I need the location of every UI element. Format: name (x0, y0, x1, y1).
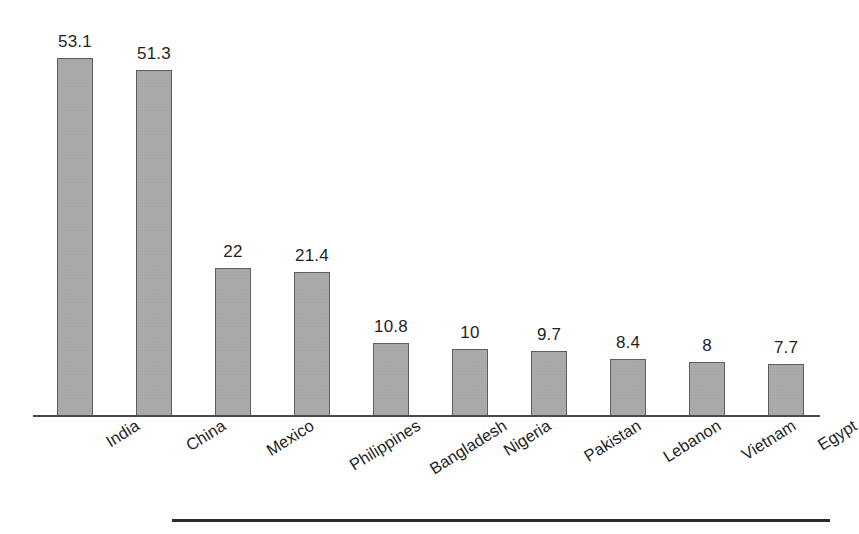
bar-group: 10.8 (373, 0, 409, 416)
bar-group: 7.7 (768, 0, 804, 416)
bar-value-label: 10 (460, 323, 479, 343)
bar (57, 58, 93, 416)
bar-group: 21.4 (294, 0, 330, 416)
bar (215, 268, 251, 416)
bar (136, 70, 172, 416)
bar-value-label: 10.8 (374, 317, 408, 337)
bar-group: 22 (215, 0, 251, 416)
footer-rule (172, 519, 830, 522)
category-label: Vietnam (738, 416, 799, 464)
bar (689, 362, 725, 416)
category-label: Nigeria (500, 416, 554, 460)
category-axis-labels: IndiaChinaMexicoPhilippinesBangladeshNig… (0, 416, 859, 506)
bar-group: 8 (689, 0, 725, 416)
bar-group: 53.1 (57, 0, 93, 416)
category-label: Bangladesh (426, 416, 510, 478)
bar-value-label: 21.4 (295, 246, 329, 266)
bar-value-label: 51.3 (137, 44, 171, 64)
bar-group: 8.4 (610, 0, 646, 416)
bar-value-label: 53.1 (58, 32, 92, 52)
category-label: Lebanon (660, 416, 725, 466)
category-label: China (183, 416, 230, 455)
bar (768, 364, 804, 416)
bar (452, 349, 488, 416)
bar-group: 9.7 (531, 0, 567, 416)
bar-value-label: 9.7 (537, 325, 561, 345)
bar-group: 51.3 (136, 0, 172, 416)
category-label: India (102, 416, 142, 451)
category-label: Mexico (263, 416, 317, 460)
bar (294, 272, 330, 416)
bar-value-label: 8.4 (616, 333, 640, 353)
category-label: Philippines (346, 416, 424, 474)
plot-area: 53.151.32221.410.8109.78.487.7 (0, 0, 859, 416)
bar-value-label: 8 (702, 336, 712, 356)
bar-chart-figure: 53.151.32221.410.8109.78.487.7 IndiaChin… (0, 0, 859, 534)
bar (610, 359, 646, 416)
bar-value-label: 22 (223, 242, 242, 262)
category-label: Egypt (814, 416, 859, 454)
bar (373, 343, 409, 416)
bar (531, 351, 567, 416)
bar-group: 10 (452, 0, 488, 416)
category-label: Pakistan (581, 416, 645, 466)
bar-value-label: 7.7 (774, 338, 798, 358)
